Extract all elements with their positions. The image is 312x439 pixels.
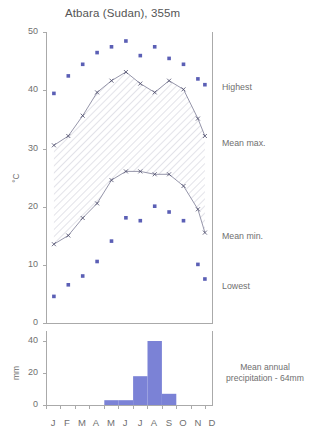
precip-tick-40 <box>43 341 47 342</box>
xtick-4 <box>104 405 105 409</box>
precip-axis-title: mm <box>11 363 21 383</box>
precip-bar-aug <box>148 341 162 405</box>
month-label-jul: J <box>133 418 147 428</box>
month-label-aug: A <box>147 418 161 428</box>
precip-y-axis <box>46 331 47 405</box>
precipitation-bars <box>104 341 176 405</box>
legend-mean-min: Mean min. <box>222 231 263 241</box>
xtick-3 <box>89 405 90 409</box>
month-label-apr: A <box>89 418 103 428</box>
xtick-5 <box>118 405 119 409</box>
xtick-0 <box>46 405 47 409</box>
precip-tick-20 <box>43 373 47 374</box>
month-label-mar: M <box>75 418 89 428</box>
month-label-jun: J <box>118 418 132 428</box>
month-label-nov: N <box>191 418 205 428</box>
month-label-may: M <box>104 418 118 428</box>
xtick-8 <box>162 405 163 409</box>
xtick-11 <box>205 405 206 409</box>
month-label-sep: S <box>162 418 176 428</box>
precip-x-axis <box>46 405 213 406</box>
month-label-jan: J <box>46 418 60 428</box>
legend-mean-max: Mean max. <box>222 138 266 148</box>
month-label-feb: F <box>60 418 74 428</box>
legend-highest: Highest <box>222 82 252 92</box>
xtick-7 <box>147 405 148 409</box>
mean-range-band <box>54 72 205 244</box>
month-label-dec: D <box>205 418 219 428</box>
legend-lowest: Lowest <box>222 281 250 291</box>
precip-ylabel-0: 0 <box>16 400 38 409</box>
xtick-2 <box>75 405 76 409</box>
xtick-1 <box>60 405 61 409</box>
xtick-9 <box>176 405 177 409</box>
xtick-6 <box>133 405 134 409</box>
precip-bar-sep <box>162 394 176 405</box>
precipitation-note: Mean annual precipitation - 64mm <box>220 362 310 384</box>
precip-right-axis <box>212 331 213 405</box>
month-label-oct: O <box>176 418 190 428</box>
precip-bar-jul <box>133 376 147 405</box>
precip-ylabel-40: 40 <box>16 336 38 345</box>
xtick-10 <box>191 405 192 409</box>
